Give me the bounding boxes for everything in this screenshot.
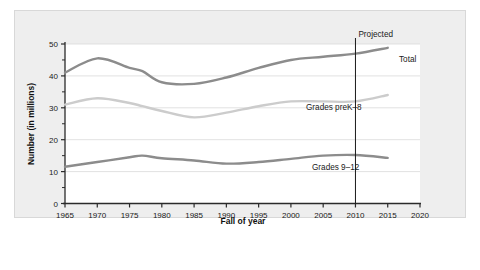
series-label-total: Total xyxy=(399,55,416,64)
projected-annotation-label: Projected xyxy=(358,30,393,39)
x-tick-label-2000: 2000 xyxy=(282,211,300,220)
series-label-grades-9-12: Grades 9–12 xyxy=(312,163,360,172)
x-tick-label-2005: 2005 xyxy=(314,211,332,220)
y-tick-label-0: 0 xyxy=(54,200,59,209)
y-axis-title: Number (in millions) xyxy=(26,83,36,165)
x-tick-label-2015: 2015 xyxy=(379,211,397,220)
x-axis-title: Fall of year xyxy=(221,216,267,226)
x-tick-label-1985: 1985 xyxy=(185,211,203,220)
plot-area-background xyxy=(65,44,420,203)
x-tick-label-2020: 2020 xyxy=(411,211,429,220)
y-axis-tick-labels: 01020304050 xyxy=(49,40,58,209)
x-tick-label-2010: 2010 xyxy=(347,211,365,220)
x-tick-label-1970: 1970 xyxy=(88,211,106,220)
line-chart: 01020304050 1965197019751980198519901995… xyxy=(0,0,480,270)
y-tick-label-40: 40 xyxy=(49,72,58,81)
y-tick-label-20: 20 xyxy=(49,136,58,145)
x-tick-label-1965: 1965 xyxy=(56,211,74,220)
y-tick-label-50: 50 xyxy=(49,40,58,49)
y-tick-label-30: 30 xyxy=(49,104,58,113)
series-label-grades-prek-8: Grades preK–8 xyxy=(306,103,362,112)
x-tick-label-1975: 1975 xyxy=(121,211,139,220)
x-tick-label-1980: 1980 xyxy=(153,211,171,220)
y-tick-label-10: 10 xyxy=(49,168,58,177)
